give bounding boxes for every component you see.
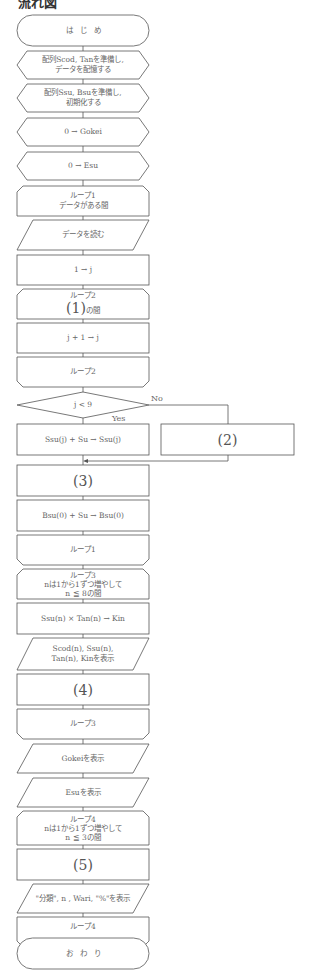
disp1-text-2: Tan(n), Kinを表示 bbox=[51, 654, 114, 664]
blank1-marker: (1) bbox=[66, 300, 86, 316]
disp1-text-1: Scod(n), Ssu(n), bbox=[53, 644, 114, 654]
disp-wari-label: "分類", n , Wari, "%"を表示 bbox=[17, 884, 149, 913]
loop2-suffix: の間 bbox=[86, 306, 100, 315]
loop1-start-label: ループ1データがある間 bbox=[17, 186, 149, 216]
blank4-text: (4) bbox=[73, 685, 93, 695]
prep2-text-1: 配列Ssu, Bsuを準備し, bbox=[44, 88, 121, 98]
loop2-end-text: ループ2 bbox=[70, 367, 96, 377]
end-label: お わ り bbox=[17, 938, 149, 969]
loop1-text-1: ループ1 bbox=[70, 191, 96, 201]
bsu-add-label: Bsu(0) + Su → Bsu(0) bbox=[17, 500, 149, 531]
init-gokei-text: 0 → Gokei bbox=[64, 127, 102, 137]
disp-esu-label: Esuを表示 bbox=[17, 778, 149, 807]
prep1-text-1: 配列Scod, Tanを準備し, bbox=[42, 55, 124, 65]
init-esu-label: 0 → Esu bbox=[17, 152, 149, 180]
loop4-text-3: n ≦ 3の間 bbox=[65, 833, 100, 842]
loop3-end-label: ループ3 bbox=[17, 709, 149, 739]
prep1-label: 配列Scod, Tanを準備し,データを配憶する bbox=[17, 51, 149, 79]
loop4-text-2: nは1から1ずつ増やして bbox=[44, 824, 121, 833]
prep1-text-2: データを配憶する bbox=[55, 65, 111, 75]
ssu-add-text: Ssu(j) + Su → Ssu(j) bbox=[45, 435, 121, 445]
inc-j-label: j + 1 → j bbox=[17, 323, 149, 353]
disp-gokei-label: Gokeiを表示 bbox=[17, 744, 149, 773]
inc-j-text: j + 1 → j bbox=[67, 333, 99, 343]
loop3-text-1: ループ3 bbox=[70, 571, 96, 580]
set-j-label: 1 → j bbox=[17, 255, 149, 285]
loop3-text-2: nは1から1ずつ増やして bbox=[44, 580, 121, 589]
merge-arrow-icon bbox=[83, 459, 88, 463]
read-label: データを読む bbox=[17, 220, 149, 250]
loop4-start-label: ループ4nは1から1ずつ増やしてn ≦ 3の間 bbox=[17, 811, 149, 845]
disp-esu-text: Esuを表示 bbox=[65, 788, 100, 798]
blank3-text: (3) bbox=[73, 476, 93, 486]
kin-calc-text: Ssu(n) × Tan(n) → Kin bbox=[41, 614, 125, 624]
blank5-label: (5) bbox=[17, 849, 149, 880]
ssu-add-label: Ssu(j) + Su → Ssu(j) bbox=[17, 424, 149, 455]
kin-calc-label: Ssu(n) × Tan(n) → Kin bbox=[17, 603, 149, 634]
set-j-text: 1 → j bbox=[74, 265, 92, 275]
yes-label: Yes bbox=[112, 414, 125, 423]
bsu-add-text: Bsu(0) + Su → Bsu(0) bbox=[42, 511, 124, 521]
decision-text: j < 9 bbox=[74, 400, 92, 410]
decision-label: j < 9 bbox=[17, 392, 149, 418]
loop2-start-label: ループ2(1)の間 bbox=[17, 289, 149, 319]
loop4-end-text: ループ4 bbox=[70, 922, 96, 932]
end-text: お わ り bbox=[66, 949, 101, 959]
loop3-text-3: n ≦ 8の間 bbox=[65, 589, 100, 598]
no-branch-line bbox=[149, 405, 228, 424]
loop1-text-2: データがある間 bbox=[59, 201, 108, 211]
blank5-text: (5) bbox=[73, 860, 93, 870]
disp-wari-text: "分類", n , Wari, "%"を表示 bbox=[36, 894, 131, 904]
disp-gokei-text: Gokeiを表示 bbox=[62, 754, 105, 764]
blank2-text: (2) bbox=[218, 435, 238, 445]
loop4-text-1: ループ4 bbox=[70, 815, 96, 824]
prep2-text-2: 初期化する bbox=[66, 98, 101, 108]
start-text: は じ め bbox=[66, 26, 101, 36]
start-label: は じ め bbox=[17, 15, 149, 46]
loop1-end-text: ループ1 bbox=[70, 545, 96, 555]
loop2-end-label: ループ2 bbox=[17, 357, 149, 387]
blank2-label: (2) bbox=[161, 424, 294, 455]
init-esu-text: 0 → Esu bbox=[68, 161, 98, 171]
loop4-end-label: ループ4 bbox=[17, 917, 149, 937]
loop3-end-text: ループ3 bbox=[70, 719, 96, 729]
init-gokei-label: 0 → Gokei bbox=[17, 118, 149, 146]
blank3-label: (3) bbox=[17, 465, 149, 496]
read-text: データを読む bbox=[62, 230, 104, 240]
disp1-label: Scod(n), Ssu(n),Tan(n), Kinを表示 bbox=[17, 638, 149, 670]
loop3-start-label: ループ3nは1から1ずつ増やしてn ≦ 8の間 bbox=[17, 569, 149, 599]
no-label: No bbox=[151, 394, 163, 403]
merge-line bbox=[86, 455, 228, 461]
prep2-label: 配列Ssu, Bsuを準備し,初期化する bbox=[17, 84, 149, 112]
loop2-text-2: (1)の間 bbox=[66, 301, 100, 318]
blank4-label: (4) bbox=[17, 674, 149, 705]
loop1-end-label: ループ1 bbox=[17, 535, 149, 565]
